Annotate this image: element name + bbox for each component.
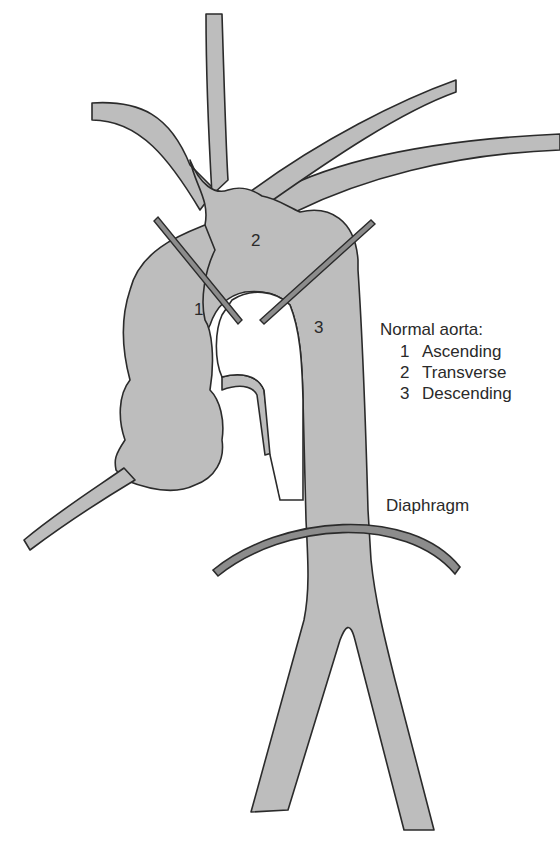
legend-item-2-name: Transverse (422, 363, 506, 383)
legend-item-2-number: 2 (400, 363, 409, 383)
legend-item-1-number: 1 (400, 342, 409, 362)
legend-item-3-number: 3 (400, 384, 409, 404)
legend-item-1-name: Ascending (422, 342, 501, 362)
segment-number-3: 3 (314, 318, 323, 338)
diaphragm-label: Diaphragm (386, 496, 469, 516)
segment-number-2: 2 (251, 231, 260, 251)
branch-top (206, 14, 228, 195)
legend-title: Normal aorta: (380, 320, 483, 340)
segment-number-1: 1 (194, 300, 203, 320)
left-lower-vessel (24, 468, 135, 550)
aorta-diagram (0, 0, 560, 847)
branch-left (92, 103, 215, 210)
aortic-root (115, 225, 223, 490)
aorta-body (178, 160, 434, 830)
legend-item-3-name: Descending (422, 384, 512, 404)
